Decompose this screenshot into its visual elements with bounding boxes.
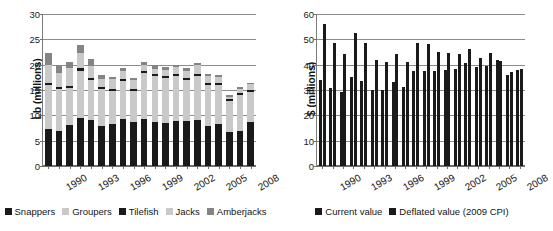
- bar-group: [128, 14, 139, 166]
- bar-current-value: [402, 87, 405, 166]
- x-axis-tick-label: 2002: [463, 172, 488, 193]
- legend-left: SnappersGroupersTilefishJacksAmberjacks: [0, 206, 278, 217]
- bar-segment-amberjacks: [141, 62, 148, 65]
- legend-item[interactable]: Jacks: [166, 206, 200, 217]
- bar-segment-jacks: [205, 76, 212, 83]
- bar-segment-amberjacks: [183, 68, 190, 72]
- bar-current-value: [381, 90, 384, 166]
- bar-group: [245, 14, 256, 166]
- x-axis-tick-label: 2005: [494, 172, 519, 193]
- bar-segment-groupers: [56, 89, 63, 130]
- bar-segment-tilefish: [120, 79, 127, 81]
- bar-group: [86, 14, 97, 166]
- x-axis-tick-mark: [219, 166, 220, 169]
- bar-segment-groupers: [183, 80, 190, 122]
- bar-segment-jacks: [45, 65, 52, 83]
- plot-area-left: 051015202530: [42, 14, 256, 166]
- bar-group: [150, 14, 161, 166]
- bar-group: [43, 14, 54, 166]
- legend-item[interactable]: Groupers: [62, 206, 112, 217]
- legend-item[interactable]: Tilefish: [119, 206, 159, 217]
- legend-label: Current value: [325, 206, 382, 217]
- legend-swatch-icon: [207, 208, 214, 215]
- bar-segment-groupers: [247, 92, 254, 122]
- x-axis-tick-label: 1993: [96, 172, 121, 193]
- x-axis-tick-mark: [333, 166, 334, 169]
- bar-group: [327, 14, 337, 166]
- legend-item[interactable]: Amberjacks: [207, 206, 267, 217]
- bar-deflated-value: [468, 49, 471, 166]
- legend-swatch-icon: [166, 208, 173, 215]
- legend-item[interactable]: Deflated value (2009 CPI): [389, 206, 508, 217]
- y-axis-tick-label: 20: [29, 59, 40, 70]
- bar-current-value: [516, 70, 519, 166]
- bar-group: [348, 14, 358, 166]
- x-axis-tick-mark: [343, 166, 344, 169]
- gridline: [43, 166, 256, 167]
- bar-segment-jacks: [130, 80, 137, 89]
- bar-group: [160, 14, 171, 166]
- value-chart-panel: $ (millions) 0102030405060 Current value…: [278, 0, 553, 231]
- x-axis-tick-mark: [102, 166, 103, 169]
- bar-group: [359, 14, 369, 166]
- x-axis-tick-mark: [70, 166, 71, 169]
- bar-segment-groupers: [173, 76, 180, 121]
- bar-segment-snappers: [173, 121, 180, 166]
- bar-deflated-value: [427, 44, 430, 166]
- legend-item[interactable]: Current value: [315, 206, 382, 217]
- bar-segment-tilefish: [247, 90, 254, 92]
- bar-segment-jacks: [120, 71, 127, 79]
- bar-deflated-value: [510, 72, 513, 166]
- bar-segment-groupers: [152, 76, 159, 122]
- bar-segment-jacks: [183, 71, 190, 78]
- x-axis-tick-mark: [91, 166, 92, 169]
- bar-segment-snappers: [247, 122, 254, 166]
- bar-deflated-value: [333, 43, 336, 166]
- bar-group: [317, 14, 327, 166]
- x-axis-tick-label: 1999: [160, 172, 185, 193]
- bar-group: [442, 14, 452, 166]
- y-axis-tick-label: 10: [29, 110, 40, 121]
- x-axis-tick-mark: [155, 166, 156, 169]
- legend-label: Amberjacks: [217, 206, 267, 217]
- bar-segment-snappers: [56, 131, 63, 166]
- bar-group: [107, 14, 118, 166]
- bar-group: [213, 14, 224, 166]
- bar-deflated-value: [323, 24, 326, 166]
- bar-segment-snappers: [66, 125, 73, 166]
- bar-deflated-value: [520, 69, 523, 166]
- x-axis-tick-mark: [165, 166, 166, 169]
- bar-group: [411, 14, 421, 166]
- x-axis-tick-mark: [229, 166, 230, 169]
- y-axis-tick-label: 40: [303, 59, 314, 70]
- bar-segment-jacks: [98, 79, 105, 87]
- bar-deflated-value: [364, 43, 367, 166]
- bar-segment-amberjacks: [109, 77, 116, 80]
- legend-swatch-icon: [315, 208, 322, 215]
- bar-segment-groupers: [194, 76, 201, 121]
- legend-swatch-icon: [119, 208, 126, 215]
- x-axis-tick-label: 1993: [369, 172, 394, 193]
- bar-deflated-value: [479, 58, 482, 166]
- bar-current-value: [319, 80, 322, 166]
- bar-segment-jacks: [56, 73, 63, 87]
- x-axis-tick-mark: [468, 166, 469, 169]
- bar-segment-amberjacks: [205, 74, 212, 77]
- bar-segment-tilefish: [215, 83, 222, 85]
- bar-segment-snappers: [77, 118, 84, 166]
- x-axis-tick-mark: [197, 166, 198, 169]
- bar-segment-tilefish: [237, 93, 244, 95]
- legend-item[interactable]: Snappers: [5, 206, 56, 217]
- bar-segment-snappers: [194, 120, 201, 166]
- bar-group: [54, 14, 65, 166]
- x-axis-tick-mark: [134, 166, 135, 169]
- x-axis-tick-label: 2008: [525, 172, 550, 193]
- bar-deflated-value: [458, 54, 461, 166]
- bar-group: [118, 14, 129, 166]
- bar-segment-jacks: [109, 79, 116, 89]
- legend-swatch-icon: [5, 208, 12, 215]
- bar-current-value: [433, 71, 436, 166]
- bar-group: [192, 14, 203, 166]
- bar-current-value: [350, 77, 353, 166]
- bar-current-value: [454, 69, 457, 166]
